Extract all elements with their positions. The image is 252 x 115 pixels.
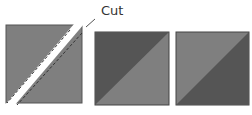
quilt-diagram xyxy=(0,0,252,115)
cut-square xyxy=(4,24,84,106)
half-triangle-square-a xyxy=(95,32,169,105)
half-triangle-square-b xyxy=(176,32,249,105)
cut-pointer-line xyxy=(86,19,95,27)
